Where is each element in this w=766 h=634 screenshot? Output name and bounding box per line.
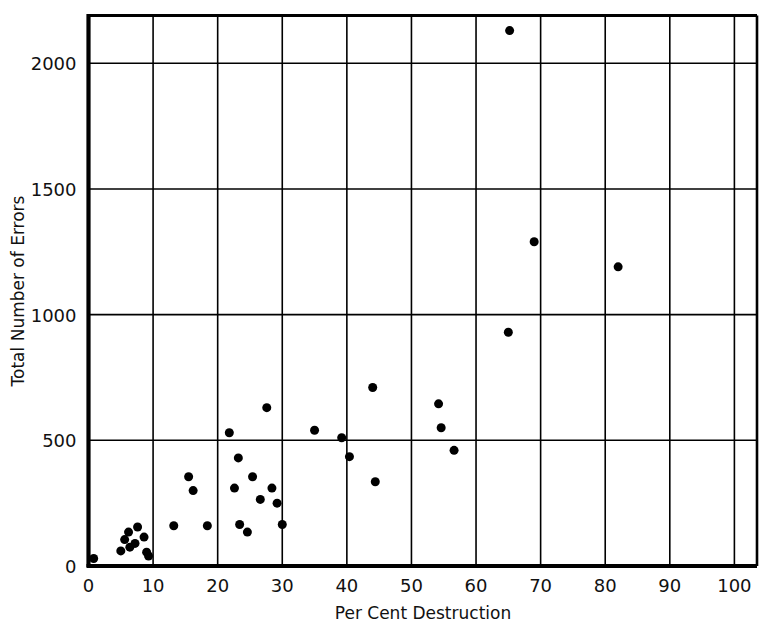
plot-canvas: 0102030405060708090100 0500100015002000 … xyxy=(0,0,766,634)
x-tick-label-10: 10 xyxy=(142,575,165,596)
data-point xyxy=(248,472,257,481)
y-axis-title: Total Number of Errors xyxy=(8,195,28,387)
data-point xyxy=(450,446,459,455)
data-point xyxy=(267,484,276,493)
data-point xyxy=(614,262,623,271)
data-point xyxy=(234,453,243,462)
data-point xyxy=(124,528,133,537)
data-point xyxy=(230,484,239,493)
y-tick-label-1000: 1000 xyxy=(31,305,77,326)
data-point xyxy=(368,383,377,392)
data-point xyxy=(530,237,539,246)
x-tick-label-100: 100 xyxy=(717,575,751,596)
data-point xyxy=(504,328,513,337)
data-point xyxy=(235,520,244,529)
data-point xyxy=(337,433,346,442)
data-point xyxy=(131,539,140,548)
data-point xyxy=(256,495,265,504)
x-tick-label-0: 0 xyxy=(83,575,94,596)
data-point xyxy=(273,499,282,508)
x-tick-label-90: 90 xyxy=(658,575,681,596)
data-point xyxy=(140,533,149,542)
x-tick-label-20: 20 xyxy=(206,575,229,596)
x-tick-label-50: 50 xyxy=(400,575,423,596)
data-point xyxy=(184,472,193,481)
x-axis-title: Per Cent Destruction xyxy=(335,603,511,623)
y-tick-label-0: 0 xyxy=(65,556,76,577)
data-point xyxy=(169,521,178,530)
data-point xyxy=(89,554,98,563)
data-point xyxy=(133,523,142,532)
scatter-plot-figure: 0102030405060708090100 0500100015002000 … xyxy=(0,0,766,634)
data-point xyxy=(144,551,153,560)
data-point xyxy=(203,521,212,530)
data-point xyxy=(262,403,271,412)
figure-background xyxy=(0,0,766,634)
data-point xyxy=(371,477,380,486)
data-point xyxy=(243,528,252,537)
data-point xyxy=(310,426,319,435)
x-tick-label-60: 60 xyxy=(465,575,488,596)
data-point xyxy=(189,486,198,495)
data-point xyxy=(434,399,443,408)
x-tick-label-80: 80 xyxy=(594,575,617,596)
y-tick-label-500: 500 xyxy=(42,430,76,451)
data-point xyxy=(437,423,446,432)
data-point xyxy=(116,546,125,555)
data-point xyxy=(345,452,354,461)
x-tick-label-40: 40 xyxy=(335,575,358,596)
x-tick-label-30: 30 xyxy=(271,575,294,596)
data-point xyxy=(225,428,234,437)
x-tick-label-70: 70 xyxy=(529,575,552,596)
data-point xyxy=(278,520,287,529)
data-point xyxy=(505,26,514,35)
y-tick-label-1500: 1500 xyxy=(31,179,77,200)
y-tick-label-2000: 2000 xyxy=(31,53,77,74)
